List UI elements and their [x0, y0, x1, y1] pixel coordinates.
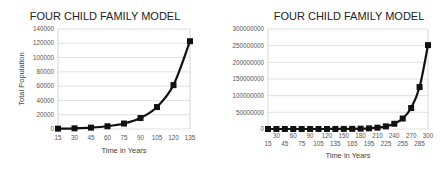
x-tick-label: 105 — [313, 140, 324, 147]
x-tick-label: 105 — [152, 134, 163, 141]
data-point-marker — [349, 126, 355, 132]
y-tick-label: 300000000 — [232, 25, 264, 32]
data-point-marker — [121, 121, 127, 127]
data-point-marker — [187, 38, 193, 44]
x-tick-label: 150 — [339, 132, 350, 139]
x-tick-label: 90 — [137, 134, 145, 141]
x-tick-label: 270 — [406, 132, 417, 139]
data-point-marker — [358, 126, 364, 132]
x-tick-label: 30 — [71, 134, 79, 141]
x-tick-label: 300 — [423, 132, 434, 139]
data-point-marker — [154, 104, 160, 110]
y-tick-label: 100000 — [33, 54, 55, 61]
x-tick-label: 75 — [120, 134, 128, 141]
data-point-marker — [307, 126, 313, 132]
data-point-marker — [316, 126, 322, 132]
x-tick-label: 15 — [264, 140, 272, 147]
data-point-marker — [366, 125, 372, 131]
data-point-marker — [88, 125, 94, 131]
y-axis-title: Total Population — [17, 52, 26, 105]
y-tick-label: 80000 — [36, 68, 54, 75]
data-point-marker — [290, 126, 296, 132]
x-tick-label: 90 — [307, 132, 315, 139]
x-tick-label: 285 — [414, 140, 425, 147]
y-tick-label: 20000 — [36, 111, 54, 118]
x-tick-label: 30 — [273, 132, 281, 139]
x-tick-label: 120 — [168, 134, 179, 141]
data-point-marker — [417, 84, 423, 90]
x-tick-label: 120 — [322, 132, 333, 139]
x-axis-title: Time in Years — [101, 146, 146, 155]
x-tick-label: 195 — [364, 140, 375, 147]
data-point-marker — [391, 121, 397, 127]
chart-left-four-child-model: FOUR CHILD FAMILY MODEL02000040000600008… — [0, 0, 223, 170]
x-tick-label: 60 — [290, 132, 298, 139]
y-tick-label: 60000 — [36, 82, 54, 89]
x-tick-label: 165 — [347, 140, 358, 147]
data-point-marker — [299, 126, 305, 132]
x-tick-label: 240 — [389, 132, 400, 139]
y-tick-label: 40000 — [36, 97, 54, 104]
data-point-marker — [383, 123, 389, 129]
chart-right-four-child-model: FOUR CHILD FAMILY MODEL05000000010000000… — [223, 0, 446, 170]
y-tick-label: 150000000 — [232, 75, 264, 82]
data-point-marker — [138, 115, 144, 121]
x-tick-label: 15 — [54, 134, 62, 141]
x-axis-title: Time in Years — [325, 151, 370, 160]
data-point-marker — [408, 105, 414, 111]
data-point-marker — [324, 126, 330, 132]
y-tick-label: 200000000 — [232, 59, 264, 66]
x-tick-label: 225 — [381, 140, 392, 147]
x-tick-label: 135 — [330, 140, 341, 147]
data-point-marker — [341, 126, 347, 132]
y-tick-label: 140000 — [33, 25, 55, 32]
y-tick-label: 0 — [50, 125, 54, 132]
y-tick-label: 0 — [260, 125, 264, 132]
x-tick-label: 60 — [104, 134, 112, 141]
series-line — [58, 41, 190, 128]
x-tick-label: 135 — [185, 134, 196, 141]
data-point-marker — [171, 82, 177, 88]
x-tick-label: 45 — [87, 134, 95, 141]
data-point-marker — [400, 116, 406, 122]
x-tick-label: 75 — [298, 140, 306, 147]
data-point-marker — [265, 126, 271, 132]
data-point-marker — [105, 123, 111, 129]
data-point-marker — [55, 126, 61, 132]
x-tick-label: 180 — [355, 132, 366, 139]
x-tick-label: 45 — [281, 140, 289, 147]
x-tick-label: 255 — [397, 140, 408, 147]
chart-title: FOUR CHILD FAMILY MODEL — [274, 10, 425, 22]
data-point-marker — [425, 42, 431, 48]
data-point-marker — [332, 126, 338, 132]
y-tick-label: 50000000 — [236, 109, 265, 116]
y-tick-label: 120000 — [33, 39, 55, 46]
data-point-marker — [273, 126, 279, 132]
y-tick-label: 100000000 — [232, 92, 264, 99]
data-point-marker — [72, 125, 78, 131]
data-point-marker — [282, 126, 288, 132]
chart-title: FOUR CHILD FAMILY MODEL — [30, 10, 181, 22]
data-point-marker — [374, 125, 380, 131]
x-tick-label: 210 — [372, 132, 383, 139]
y-tick-label: 250000000 — [232, 42, 264, 49]
